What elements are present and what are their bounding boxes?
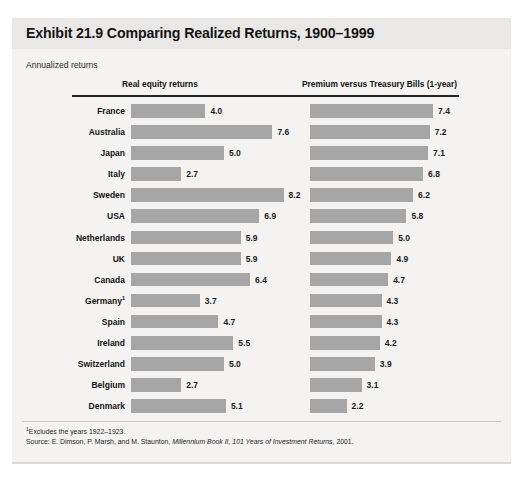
chart-row: Switzerland5.03.9 xyxy=(12,354,511,375)
chart-subtitle: Annualized returns xyxy=(26,60,98,70)
bar-real-equity-returns xyxy=(131,252,241,266)
row-label-italy: Italy xyxy=(12,169,125,179)
bar-real-equity-returns xyxy=(131,357,224,371)
source-prefix: Source: E. Dimson, P. Marsh, and M. Stau… xyxy=(26,438,172,445)
row-label-uk: UK xyxy=(12,254,125,264)
row-label-japan: Japan xyxy=(12,148,125,158)
bar-premium-versus-treasury-bills xyxy=(310,104,433,118)
header-divider xyxy=(72,95,459,97)
bar-real-equity-returns xyxy=(131,378,181,392)
bar-value-real-equity-returns: 8.2 xyxy=(289,190,301,200)
bar-value-real-equity-returns: 2.7 xyxy=(186,380,198,390)
bar-value-real-equity-returns: 3.7 xyxy=(205,296,217,306)
footnotes: 1Excludes the years 1922–1923. Source: E… xyxy=(26,427,496,447)
row-label-denmark: Denmark xyxy=(12,401,125,411)
chart-row: France4.07.4 xyxy=(12,101,511,122)
bar-cell-premium-versus-treasury-bills: 3.1 xyxy=(310,378,453,392)
bar-cell-premium-versus-treasury-bills: 4.2 xyxy=(310,336,453,350)
bar-value-premium-versus-treasury-bills: 3.1 xyxy=(367,380,379,390)
bar-cell-premium-versus-treasury-bills: 6.2 xyxy=(310,188,453,202)
chart-row: USA6.95.8 xyxy=(12,206,511,227)
bar-value-real-equity-returns: 6.9 xyxy=(264,211,276,221)
bar-value-real-equity-returns: 5.9 xyxy=(246,254,258,264)
bar-value-real-equity-returns: 4.7 xyxy=(223,317,235,327)
bar-real-equity-returns xyxy=(131,125,272,139)
chart-row: Sweden8.26.2 xyxy=(12,185,511,206)
bar-cell-premium-versus-treasury-bills: 4.3 xyxy=(310,294,453,308)
bar-real-equity-returns xyxy=(131,336,233,350)
bar-cell-premium-versus-treasury-bills: 5.0 xyxy=(310,231,453,245)
bar-value-premium-versus-treasury-bills: 5.0 xyxy=(398,233,410,243)
bar-value-premium-versus-treasury-bills: 6.8 xyxy=(428,169,440,179)
bar-cell-premium-versus-treasury-bills: 4.7 xyxy=(310,273,453,287)
bar-real-equity-returns xyxy=(131,399,226,413)
bar-value-real-equity-returns: 2.7 xyxy=(186,169,198,179)
bar-value-premium-versus-treasury-bills: 7.2 xyxy=(435,127,447,137)
bar-cell-premium-versus-treasury-bills: 7.2 xyxy=(310,125,453,139)
bar-cell-real-equity-returns: 4.0 xyxy=(131,104,291,118)
bar-real-equity-returns xyxy=(131,294,200,308)
bar-real-equity-returns xyxy=(131,146,224,160)
chart-row: Ireland5.54.2 xyxy=(12,333,511,354)
bar-premium-versus-treasury-bills xyxy=(310,378,362,392)
bar-value-premium-versus-treasury-bills: 7.4 xyxy=(438,106,450,116)
bar-cell-real-equity-returns: 5.0 xyxy=(131,146,291,160)
chart-row: Japan5.07.1 xyxy=(12,143,511,164)
bar-value-premium-versus-treasury-bills: 4.3 xyxy=(387,296,399,306)
bar-cell-premium-versus-treasury-bills: 7.4 xyxy=(310,104,453,118)
bar-premium-versus-treasury-bills xyxy=(310,273,388,287)
bar-cell-real-equity-returns: 5.9 xyxy=(131,231,291,245)
footnote-line: 1Excludes the years 1922–1923. xyxy=(26,427,496,437)
bar-value-real-equity-returns: 5.9 xyxy=(246,233,258,243)
bar-value-premium-versus-treasury-bills: 7.1 xyxy=(433,148,445,158)
bar-value-real-equity-returns: 5.5 xyxy=(238,338,250,348)
bar-premium-versus-treasury-bills xyxy=(310,188,413,202)
bar-cell-real-equity-returns: 6.4 xyxy=(131,273,291,287)
row-label-ireland: Ireland xyxy=(12,338,125,348)
chart-row: Netherlands5.95.0 xyxy=(12,228,511,249)
row-label-australia: Australia xyxy=(12,127,125,137)
bar-cell-real-equity-returns: 5.5 xyxy=(131,336,291,350)
bar-cell-premium-versus-treasury-bills: 6.8 xyxy=(310,167,453,181)
row-label-spain: Spain xyxy=(12,317,125,327)
page-title: Exhibit 21.9 Comparing Realized Returns,… xyxy=(26,25,374,41)
bar-premium-versus-treasury-bills xyxy=(310,125,430,139)
bar-value-premium-versus-treasury-bills: 3.9 xyxy=(380,359,392,369)
bar-premium-versus-treasury-bills xyxy=(310,231,393,245)
bar-cell-premium-versus-treasury-bills: 2.2 xyxy=(310,399,453,413)
chart-row: Italy2.76.8 xyxy=(12,164,511,185)
bar-cell-premium-versus-treasury-bills: 4.3 xyxy=(310,315,453,329)
bar-real-equity-returns xyxy=(131,188,284,202)
bar-value-real-equity-returns: 7.6 xyxy=(277,127,289,137)
bar-cell-real-equity-returns: 5.0 xyxy=(131,357,291,371)
row-label-belgium: Belgium xyxy=(12,380,125,390)
chart-row: Germany13.74.3 xyxy=(12,291,511,312)
column-header-premium-versus-treasury-bills: Premium versus Treasury Bills (1-year) xyxy=(302,79,457,89)
bar-premium-versus-treasury-bills xyxy=(310,209,406,223)
bar-real-equity-returns xyxy=(131,104,205,118)
bar-premium-versus-treasury-bills xyxy=(310,315,382,329)
row-label-netherlands: Netherlands xyxy=(12,233,125,243)
bar-cell-premium-versus-treasury-bills: 5.8 xyxy=(310,209,453,223)
bar-cell-real-equity-returns: 5.1 xyxy=(131,399,291,413)
bar-cell-real-equity-returns: 8.2 xyxy=(131,188,291,202)
row-label-sweden: Sweden xyxy=(12,190,125,200)
bar-value-premium-versus-treasury-bills: 4.9 xyxy=(396,254,408,264)
bar-cell-real-equity-returns: 3.7 xyxy=(131,294,291,308)
bar-premium-versus-treasury-bills xyxy=(310,252,391,266)
bar-value-real-equity-returns: 6.4 xyxy=(255,275,267,285)
source-title: Millennium Book II, 101 Years of Investm… xyxy=(172,438,332,445)
exhibit-title-band: Exhibit 21.9 Comparing Realized Returns,… xyxy=(12,18,511,49)
bar-value-premium-versus-treasury-bills: 6.2 xyxy=(418,190,430,200)
bar-value-premium-versus-treasury-bills: 4.2 xyxy=(385,338,397,348)
bar-value-premium-versus-treasury-bills: 5.8 xyxy=(411,211,423,221)
exhibit-panel: Exhibit 21.9 Comparing Realized Returns,… xyxy=(12,18,511,464)
chart-row: Canada6.44.7 xyxy=(12,270,511,291)
row-label-france: France xyxy=(12,106,125,116)
row-label-switzerland: Switzerland xyxy=(12,359,125,369)
chart-row: UK5.94.9 xyxy=(12,249,511,270)
row-label-canada: Canada xyxy=(12,275,125,285)
bar-value-premium-versus-treasury-bills: 4.7 xyxy=(393,275,405,285)
bar-value-real-equity-returns: 5.1 xyxy=(231,401,243,411)
row-footnote-marker: 1 xyxy=(122,295,125,301)
